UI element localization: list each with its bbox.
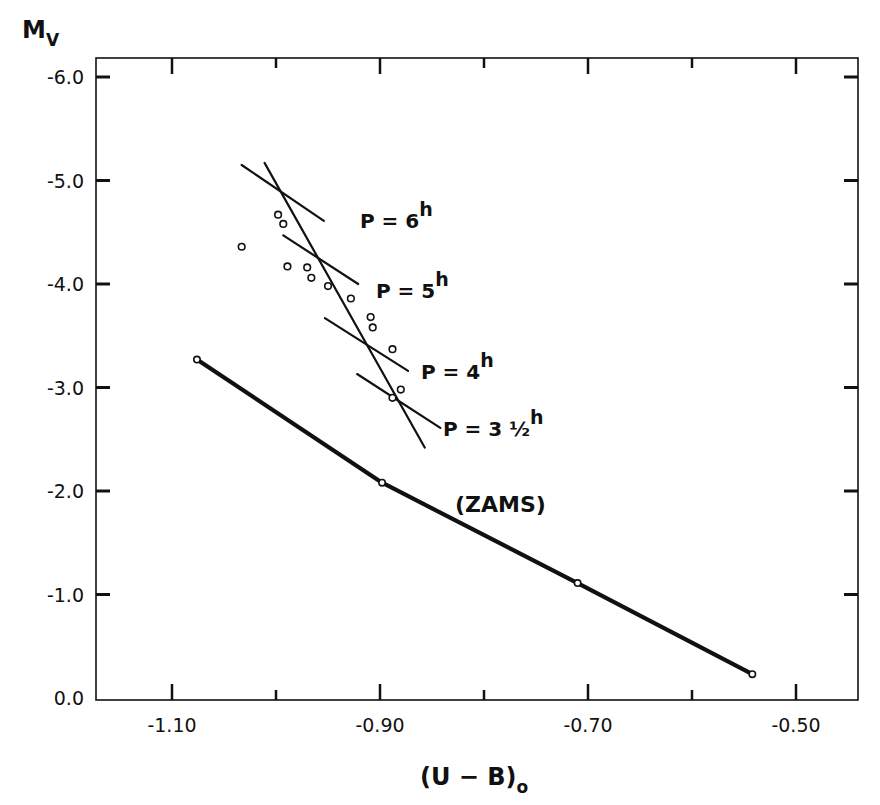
star-point <box>275 211 282 218</box>
label-text: P = 3 ½ <box>443 417 530 441</box>
zams-label: (ZAMS) <box>455 492 546 517</box>
x-tick-label: -0.90 <box>355 714 404 736</box>
x-axis-title-main: (U − B) <box>420 763 517 791</box>
period-lines <box>242 163 441 448</box>
star-point <box>367 314 374 321</box>
period-line <box>325 318 408 371</box>
x-tick-label: -0.70 <box>563 714 612 736</box>
label-superscript: h <box>530 406 544 428</box>
y-tick-label: -1.0 <box>47 584 84 606</box>
star-point <box>284 263 291 270</box>
zams-marker <box>194 356 200 362</box>
y-tick-label: -3.0 <box>47 377 84 399</box>
period-label: P = 5h <box>376 268 449 303</box>
y-axis-title: MV <box>22 16 60 50</box>
star-point <box>238 243 245 250</box>
label-superscript: h <box>435 268 449 290</box>
y-tick-label: -5.0 <box>47 170 84 192</box>
x-tick-label: -0.50 <box>771 714 820 736</box>
star-point <box>304 264 311 271</box>
star-point <box>348 295 355 302</box>
label-superscript: h <box>419 198 433 220</box>
y-tick-label: -6.0 <box>47 66 84 88</box>
label-text: P = 5 <box>376 279 435 303</box>
y-tick-label: -2.0 <box>47 480 84 502</box>
fit-line <box>265 163 425 448</box>
star-point <box>398 386 405 393</box>
zams-marker <box>574 580 580 586</box>
period-label: P = 6h <box>360 198 433 233</box>
star-point <box>325 283 332 290</box>
y-tick-label: -4.0 <box>47 273 84 295</box>
label-superscript: h <box>480 349 494 371</box>
x-tick-label: -1.10 <box>147 714 196 736</box>
period-label: P = 4h <box>421 349 494 384</box>
x-axis-title: (U − B)o <box>420 763 528 797</box>
y-tick-label: 0.0 <box>54 687 84 709</box>
y-axis-title-sub: V <box>46 30 60 50</box>
hr-diagram-chart: -6.0-5.0-4.0-3.0-2.0-1.00.0-1.10-0.90-0.… <box>0 0 880 805</box>
period-line <box>283 235 358 284</box>
star-point <box>369 324 376 331</box>
star-points <box>238 211 404 401</box>
star-point <box>308 274 315 281</box>
label-text: P = 4 <box>421 360 480 384</box>
label-text: (ZAMS) <box>455 492 546 517</box>
star-point <box>280 221 287 228</box>
y-axis-title-main: M <box>22 16 46 44</box>
star-point <box>389 395 396 402</box>
label-text: P = 6 <box>360 209 419 233</box>
star-point <box>389 346 396 353</box>
period-label: P = 3 ½h <box>443 406 543 441</box>
zams-marker <box>379 480 385 486</box>
x-axis-title-sub: o <box>517 777 529 797</box>
zams-marker <box>749 671 755 677</box>
axis-tick-labels: -6.0-5.0-4.0-3.0-2.0-1.00.0-1.10-0.90-0.… <box>47 66 821 736</box>
period-line <box>242 165 324 221</box>
